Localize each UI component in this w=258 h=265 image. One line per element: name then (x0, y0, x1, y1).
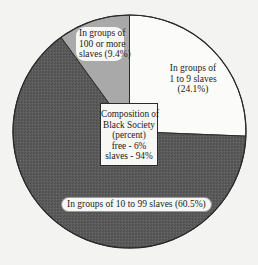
legend-line: Black Society (101, 120, 157, 131)
legend-line: (percent) (101, 130, 157, 141)
legend-line: Composition of (101, 109, 157, 120)
label-10-to-99-slaves: In groups of 10 to 99 slaves (60.5%) (62, 198, 211, 211)
label-line: 100 or more (79, 39, 121, 50)
label-line: (24.1%) (158, 84, 228, 95)
label-line: 1 to 9 slaves (158, 74, 228, 85)
label-1-to-9-slaves: In groups of 1 to 9 slaves (24.1%) (158, 63, 228, 95)
label-line: In groups of 10 to 99 slaves (60.5%) (67, 199, 206, 210)
label-line: slaves (9.4%) (79, 49, 121, 60)
label-line: In groups of (158, 63, 228, 74)
legend-slaves: slaves - 94% (101, 151, 157, 162)
label-100-or-more-slaves: In groups of 100 or more slaves (9.4%) (76, 27, 124, 61)
legend-free: free - 6% (101, 141, 157, 152)
composition-legend-box: Composition of Black Society (percent) f… (100, 103, 158, 166)
label-line: In groups of (79, 28, 121, 39)
